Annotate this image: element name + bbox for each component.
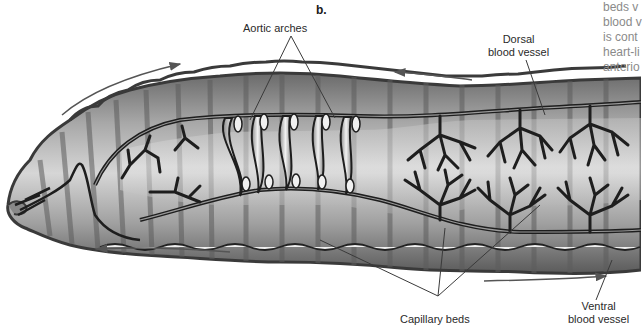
arrow-bottom-right xyxy=(484,276,606,281)
label-dorsal-vessel: Dorsal blood vessel xyxy=(488,33,549,59)
label-ventral-vessel: Ventral blood vessel xyxy=(568,300,629,326)
side-text-fragment: beds v blood v is cont heart-li anterio xyxy=(603,0,642,75)
label-aortic-arches: Aortic arches xyxy=(243,22,307,35)
panel-letter: b. xyxy=(316,3,327,17)
label-capillary-beds: Capillary beds xyxy=(400,313,470,326)
